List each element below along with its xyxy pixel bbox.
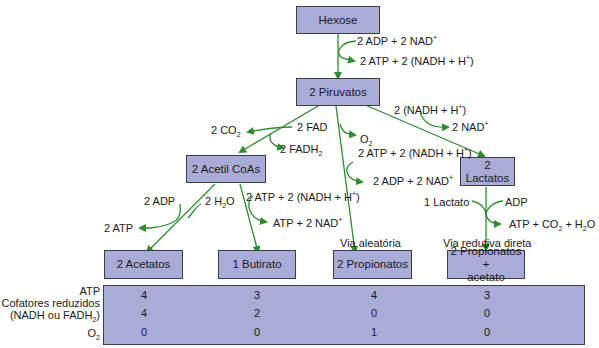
row-label-o2: O2 bbox=[88, 327, 100, 341]
arrow-o2 bbox=[340, 124, 355, 135]
row-label-cofatores-2: (NADH ou FADH2) bbox=[10, 309, 100, 323]
label-hex-out: 2 ATP + 2 (NADH + H+) bbox=[360, 55, 474, 67]
row-label-atp: ATP bbox=[79, 285, 100, 297]
node-hexose: Hexose bbox=[296, 6, 380, 34]
cell-butirato-atp: 3 bbox=[247, 289, 267, 301]
cell-butirato-cof: 2 bbox=[247, 307, 267, 319]
cell-propionatos-o2: 1 bbox=[364, 326, 384, 338]
cell-propionatos-atp: 4 bbox=[364, 289, 384, 301]
summary-table: 4 4 0 3 2 0 4 0 1 3 0 0 bbox=[103, 285, 585, 345]
label-prop-out: 2 ADP + 2 NAD+ bbox=[373, 175, 453, 187]
node-butirato-label: 1 Butirato bbox=[232, 258, 281, 271]
node-lactatos-label: 2 Lactatos bbox=[461, 159, 514, 185]
arrow-lactato-side bbox=[472, 201, 486, 215]
label-o2: O2 bbox=[360, 133, 372, 145]
node-propionatos-label: 2 Propionatos bbox=[337, 258, 408, 271]
label-but-out: ATP + 2 NAD+ bbox=[273, 217, 342, 229]
cell-acetatos-o2: 0 bbox=[134, 326, 154, 338]
label-lactato: 1 Lactato bbox=[424, 196, 469, 208]
cell-acetatos-cof: 4 bbox=[134, 307, 154, 319]
cell-propacet-cof: 0 bbox=[477, 307, 497, 319]
label-but-in: 2 ATP + 2 (NADH + H+) bbox=[246, 191, 360, 203]
arrow-hexose-side bbox=[339, 41, 356, 61]
node-acetatos: 2 Acetatos bbox=[104, 250, 183, 279]
label-via-redutiva: Via redutiva direta bbox=[443, 237, 531, 249]
cell-butirato-o2: 0 bbox=[247, 326, 267, 338]
node-propionatos-acetato-line2: acetato bbox=[467, 271, 505, 284]
label-via-aleatoria: Via aleatória bbox=[340, 237, 401, 249]
node-propionatos-acetato: 2 Propionatos + acetato bbox=[447, 250, 525, 279]
node-hexose-label: Hexose bbox=[319, 14, 358, 27]
label-adp: 2 ADP bbox=[144, 195, 175, 207]
arrow-prop-side bbox=[347, 162, 362, 182]
cell-propacet-o2: 0 bbox=[477, 326, 497, 338]
label-fad: 2 FAD bbox=[297, 121, 328, 133]
label-hex-in: 2 ADP + 2 NAD+ bbox=[357, 35, 437, 47]
node-acetil-coas: 2 Acetil CoAs bbox=[186, 155, 266, 183]
label-nad-out: 2 NAD+ bbox=[452, 121, 489, 133]
row-label-cofatores: Cofatores reduzidos bbox=[2, 297, 100, 309]
label-fadh2: 2 FADH2 bbox=[280, 143, 322, 155]
label-2atp: 2 ATP bbox=[104, 222, 133, 234]
arrow-h2o bbox=[188, 204, 201, 218]
cell-propacet-atp: 3 bbox=[477, 289, 497, 301]
node-propionatos: 2 Propionatos bbox=[333, 250, 412, 279]
node-piruvatos: 2 Piruvatos bbox=[296, 78, 380, 106]
node-piruvatos-label: 2 Piruvatos bbox=[309, 86, 367, 99]
label-lac-adp: ADP bbox=[505, 196, 528, 208]
label-h2o: 2 H2O bbox=[205, 195, 235, 207]
node-acetil-coas-label: 2 Acetil CoAs bbox=[192, 163, 260, 176]
arrow-adp-side bbox=[486, 201, 503, 224]
node-lactatos: 2 Lactatos bbox=[460, 157, 515, 186]
arrow-co2 bbox=[248, 127, 292, 132]
cell-propionatos-cof: 0 bbox=[364, 307, 384, 319]
label-prop-in: 2 ATP + 2 (NADH + H+) bbox=[358, 147, 472, 159]
label-lac-out: ATP + CO2 + H2O bbox=[509, 218, 595, 230]
node-butirato: 1 Butirato bbox=[218, 250, 296, 279]
label-nadh-in: 2 (NADH + H+) bbox=[394, 104, 466, 116]
label-co2: 2 CO2 bbox=[211, 124, 241, 136]
node-acetatos-label: 2 Acetatos bbox=[117, 258, 171, 271]
cell-acetatos-atp: 4 bbox=[134, 289, 154, 301]
